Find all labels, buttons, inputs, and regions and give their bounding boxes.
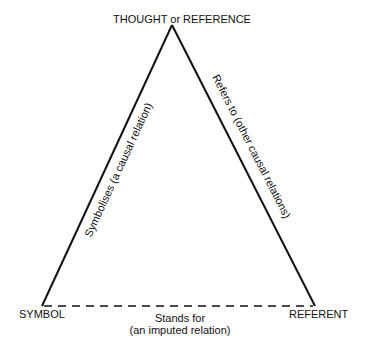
node-thought-or-reference: THOUGHT or REFERENCE — [113, 13, 251, 25]
label-symbolises: Symbolises (a causal relation) — [82, 101, 154, 239]
label-imputed-relation: (an imputed relation) — [130, 324, 231, 336]
node-referent: REFERENT — [289, 308, 349, 320]
node-symbol: SYMBOL — [19, 308, 65, 320]
edge-refers-to — [172, 25, 315, 306]
edge-symbolises — [42, 25, 172, 306]
label-refers-to: Refers to (other causal relations) — [210, 72, 293, 220]
label-stands-for: Stands for — [155, 312, 205, 324]
semiotic-triangle-diagram: THOUGHT or REFERENCE SYMBOL REFERENT Sym… — [0, 0, 367, 355]
